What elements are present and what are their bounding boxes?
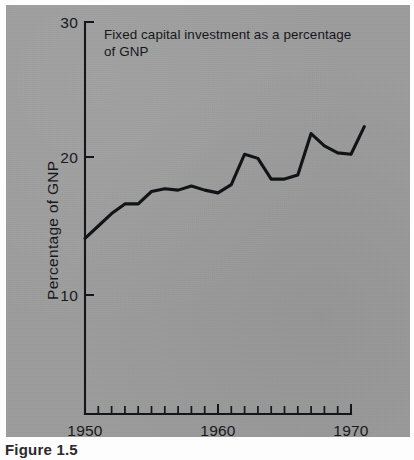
chart-title: Fixed capital investment as a percentage… <box>104 27 372 60</box>
chart-title-line-2: of GNP <box>104 44 372 61</box>
figure-caption: Figure 1.5 <box>5 441 78 460</box>
x-tick-label-1950: 1950 <box>67 422 102 439</box>
y-axis-title: Percentage of GNP <box>44 160 61 300</box>
x-axis-ticks <box>85 404 351 414</box>
y-tick-label-30: 30 <box>60 14 78 31</box>
figure-page: 30 20 10 1950 1960 1970 Percentage of GN… <box>0 0 414 460</box>
x-tick-label-1960: 1960 <box>200 422 235 439</box>
data-series-line <box>85 127 364 239</box>
y-tick-label-10: 10 <box>60 287 78 304</box>
y-axis-ticks <box>85 22 94 295</box>
chart-plot-area: 30 20 10 1950 1960 1970 Percentage of GN… <box>0 0 414 460</box>
y-tick-label-20: 20 <box>60 149 78 166</box>
chart-title-line-1: Fixed capital investment as a percentage <box>104 27 372 44</box>
x-tick-label-1970: 1970 <box>333 422 368 439</box>
